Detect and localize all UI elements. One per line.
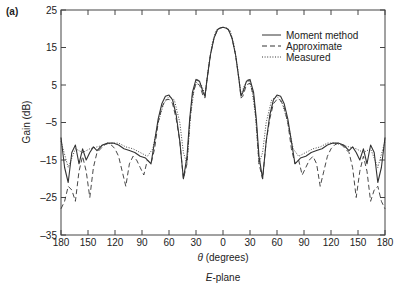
y-tick-label: –5 xyxy=(46,117,58,128)
x-tick-label: 60 xyxy=(163,237,175,248)
series-approximate xyxy=(61,27,385,209)
x-tick-label: 90 xyxy=(136,237,148,248)
plot-series xyxy=(61,27,385,209)
y-tick-label: –35 xyxy=(40,230,57,241)
legend-label: Measured xyxy=(286,52,330,63)
x-axis-label: θ (degrees) xyxy=(197,252,248,263)
x-tick-label: 120 xyxy=(323,237,340,248)
x-tick-label: 90 xyxy=(298,237,310,248)
panel-label: (a) xyxy=(6,6,18,17)
y-axis-label: Gain (dB) xyxy=(21,101,32,144)
gain-pattern-chart: (a) 180150120906030030609012015018025155… xyxy=(0,0,398,288)
legend: Moment methodApproximateMeasured xyxy=(262,30,358,63)
legend-label: Approximate xyxy=(286,41,343,52)
x-tick-label: 150 xyxy=(80,237,97,248)
x-tick-label: 180 xyxy=(377,237,394,248)
y-tick-label: 15 xyxy=(46,42,58,53)
y-tick-label: –25 xyxy=(40,192,57,203)
y-tick-label: 25 xyxy=(46,5,58,16)
x-tick-label: 0 xyxy=(220,237,226,248)
x-tick-label: 120 xyxy=(107,237,124,248)
x-tick-label: 30 xyxy=(244,237,256,248)
plane-subtitle: E-plane xyxy=(206,272,241,283)
y-tick-label: 5 xyxy=(51,80,57,91)
x-tick-label: 30 xyxy=(190,237,202,248)
legend-label: Moment method xyxy=(286,30,358,41)
y-tick-label: –15 xyxy=(40,155,57,166)
x-tick-label: 60 xyxy=(271,237,283,248)
x-tick-label: 150 xyxy=(350,237,367,248)
